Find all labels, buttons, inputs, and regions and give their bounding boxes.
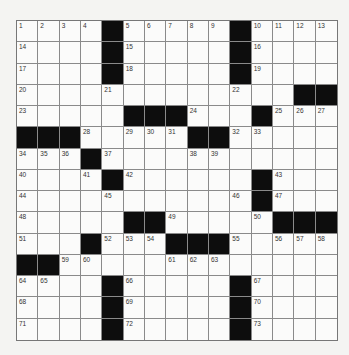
grid-cell[interactable]: 73 <box>252 319 273 340</box>
grid-cell[interactable]: 47 <box>273 191 294 212</box>
grid-cell[interactable] <box>188 212 209 233</box>
grid-cell[interactable]: 25 <box>273 106 294 127</box>
grid-cell[interactable]: 14 <box>17 42 38 63</box>
grid-cell[interactable] <box>209 191 230 212</box>
grid-cell[interactable] <box>230 212 251 233</box>
grid-cell[interactable]: 24 <box>188 106 209 127</box>
grid-cell[interactable] <box>188 64 209 85</box>
grid-cell[interactable] <box>60 234 81 255</box>
grid-cell[interactable]: 18 <box>124 64 145 85</box>
grid-cell[interactable]: 34 <box>17 149 38 170</box>
grid-cell[interactable]: 31 <box>166 127 187 148</box>
grid-cell[interactable] <box>166 64 187 85</box>
grid-cell[interactable] <box>316 42 337 63</box>
grid-cell[interactable]: 1 <box>17 21 38 42</box>
grid-cell[interactable] <box>38 297 59 318</box>
grid-cell[interactable]: 48 <box>17 212 38 233</box>
grid-cell[interactable]: 56 <box>273 234 294 255</box>
grid-cell[interactable] <box>188 85 209 106</box>
grid-cell[interactable] <box>294 42 315 63</box>
grid-cell[interactable] <box>252 85 273 106</box>
grid-cell[interactable] <box>294 276 315 297</box>
grid-cell[interactable] <box>81 319 102 340</box>
grid-cell[interactable] <box>38 191 59 212</box>
grid-cell[interactable] <box>124 149 145 170</box>
grid-cell[interactable] <box>38 64 59 85</box>
grid-cell[interactable] <box>230 170 251 191</box>
grid-cell[interactable] <box>60 170 81 191</box>
grid-cell[interactable] <box>38 106 59 127</box>
grid-cell[interactable] <box>209 170 230 191</box>
grid-cell[interactable] <box>166 85 187 106</box>
grid-cell[interactable] <box>316 170 337 191</box>
grid-cell[interactable]: 30 <box>145 127 166 148</box>
grid-cell[interactable]: 38 <box>188 149 209 170</box>
grid-cell[interactable]: 62 <box>188 255 209 276</box>
grid-cell[interactable]: 28 <box>81 127 102 148</box>
grid-cell[interactable] <box>145 276 166 297</box>
grid-cell[interactable] <box>166 297 187 318</box>
grid-cell[interactable] <box>145 297 166 318</box>
grid-cell[interactable] <box>60 319 81 340</box>
grid-cell[interactable] <box>38 85 59 106</box>
grid-cell[interactable] <box>60 297 81 318</box>
grid-cell[interactable]: 72 <box>124 319 145 340</box>
grid-cell[interactable] <box>145 255 166 276</box>
grid-cell[interactable]: 57 <box>294 234 315 255</box>
grid-cell[interactable] <box>273 276 294 297</box>
grid-cell[interactable]: 12 <box>294 21 315 42</box>
grid-cell[interactable]: 9 <box>209 21 230 42</box>
grid-cell[interactable]: 39 <box>209 149 230 170</box>
grid-cell[interactable]: 7 <box>166 21 187 42</box>
grid-cell[interactable]: 35 <box>38 149 59 170</box>
grid-cell[interactable] <box>124 85 145 106</box>
grid-cell[interactable] <box>145 191 166 212</box>
grid-cell[interactable] <box>209 297 230 318</box>
grid-cell[interactable] <box>60 276 81 297</box>
grid-cell[interactable] <box>188 170 209 191</box>
grid-cell[interactable]: 61 <box>166 255 187 276</box>
grid-cell[interactable] <box>316 191 337 212</box>
grid-cell[interactable]: 66 <box>124 276 145 297</box>
grid-cell[interactable] <box>294 319 315 340</box>
grid-cell[interactable] <box>188 319 209 340</box>
grid-cell[interactable] <box>294 170 315 191</box>
grid-cell[interactable]: 60 <box>81 255 102 276</box>
grid-cell[interactable]: 59 <box>60 255 81 276</box>
grid-cell[interactable] <box>166 170 187 191</box>
grid-cell[interactable]: 8 <box>188 21 209 42</box>
grid-cell[interactable]: 37 <box>102 149 123 170</box>
grid-cell[interactable] <box>316 297 337 318</box>
grid-cell[interactable] <box>209 319 230 340</box>
grid-cell[interactable] <box>60 85 81 106</box>
grid-cell[interactable] <box>294 149 315 170</box>
grid-cell[interactable]: 27 <box>316 106 337 127</box>
grid-cell[interactable]: 71 <box>17 319 38 340</box>
grid-cell[interactable] <box>209 106 230 127</box>
grid-cell[interactable]: 45 <box>102 191 123 212</box>
grid-cell[interactable]: 10 <box>252 21 273 42</box>
grid-cell[interactable] <box>316 255 337 276</box>
grid-cell[interactable] <box>166 149 187 170</box>
grid-cell[interactable]: 5 <box>124 21 145 42</box>
grid-cell[interactable] <box>166 191 187 212</box>
grid-cell[interactable]: 40 <box>17 170 38 191</box>
grid-cell[interactable] <box>81 42 102 63</box>
grid-cell[interactable]: 13 <box>316 21 337 42</box>
grid-cell[interactable] <box>188 191 209 212</box>
grid-cell[interactable]: 43 <box>273 170 294 191</box>
grid-cell[interactable]: 58 <box>316 234 337 255</box>
grid-cell[interactable] <box>209 85 230 106</box>
grid-cell[interactable]: 3 <box>60 21 81 42</box>
grid-cell[interactable] <box>209 212 230 233</box>
grid-cell[interactable]: 23 <box>17 106 38 127</box>
grid-cell[interactable]: 4 <box>81 21 102 42</box>
grid-cell[interactable]: 33 <box>252 127 273 148</box>
grid-cell[interactable]: 26 <box>294 106 315 127</box>
grid-cell[interactable] <box>316 127 337 148</box>
grid-cell[interactable] <box>316 276 337 297</box>
grid-cell[interactable] <box>252 255 273 276</box>
grid-cell[interactable]: 68 <box>17 297 38 318</box>
grid-cell[interactable]: 29 <box>124 127 145 148</box>
grid-cell[interactable] <box>145 42 166 63</box>
